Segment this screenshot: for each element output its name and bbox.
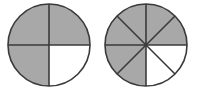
six-eighths-circle: [105, 4, 187, 86]
circle-canvas: [0, 0, 197, 94]
three-fourths-circle: [8, 4, 90, 86]
fraction-circles-figure: [0, 0, 197, 94]
fraction-circles-svg: [0, 0, 197, 94]
